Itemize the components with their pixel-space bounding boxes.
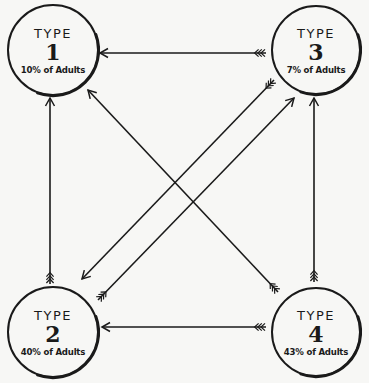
arrow-type-4-to-type-3 bbox=[310, 98, 319, 282]
node-type-2-share: 40% of Adults bbox=[9, 347, 97, 357]
arrow-type-3-to-type-2 bbox=[82, 78, 276, 279]
node-type-2-label: TYPE 2 40% of Adults bbox=[9, 309, 97, 357]
node-type-3-label: TYPE 3 7% of Adults bbox=[272, 27, 360, 75]
arrow-type-2-to-type-1 bbox=[46, 98, 55, 284]
node-type-1-number: 1 bbox=[9, 41, 97, 63]
node-type-3-share: 7% of Adults bbox=[272, 65, 360, 75]
edges-layer bbox=[46, 49, 319, 332]
node-type-1-label: TYPE 1 10% of Adults bbox=[9, 27, 97, 75]
node-type-2-number: 2 bbox=[9, 323, 97, 345]
node-type-4-share: 43% of Adults bbox=[272, 347, 360, 357]
arrow-type-4-to-type-1 bbox=[88, 90, 280, 294]
node-type-4-label: TYPE 4 43% of Adults bbox=[272, 309, 360, 357]
node-type-3-number: 3 bbox=[272, 41, 360, 63]
node-type-4-number: 4 bbox=[272, 323, 360, 345]
arrow-type-3-to-type-1 bbox=[100, 49, 266, 58]
node-type-1-share: 10% of Adults bbox=[9, 65, 97, 75]
arrow-type-2-to-type-3 bbox=[96, 98, 294, 302]
arrow-type-4-to-type-2 bbox=[102, 323, 266, 332]
